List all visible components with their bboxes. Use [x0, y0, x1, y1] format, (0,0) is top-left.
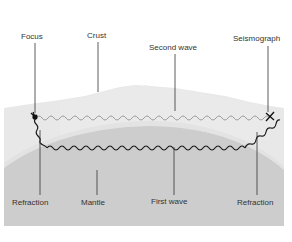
label-mantle: Mantle	[81, 198, 105, 207]
label-refraction-left: Refraction	[12, 198, 48, 207]
label-first-wave: First wave	[151, 197, 187, 206]
label-seismograph: Seismograph	[233, 34, 280, 43]
label-crust: Crust	[87, 31, 106, 40]
label-refraction-right: Refraction	[237, 198, 273, 207]
label-second-wave: Second wave	[149, 43, 197, 52]
label-focus: Focus	[21, 32, 43, 41]
